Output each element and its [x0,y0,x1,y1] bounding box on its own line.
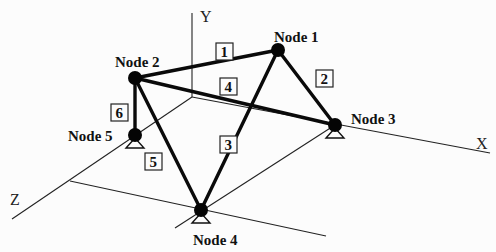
node-label: Node 5 [68,128,113,144]
member-number: 6 [116,105,124,121]
node-3 [328,118,342,132]
member-number: 2 [321,71,329,87]
z-axis [12,97,192,219]
node-label: Node 4 [193,232,238,248]
member-number: 4 [225,79,233,95]
truss-members [135,50,335,210]
labels: XYZ123456Node 1Node 2Node 3Node 4Node 5 [10,8,488,248]
truss-diagram: XYZ123456Node 1Node 2Node 3Node 4Node 5 [0,0,496,252]
node-2 [128,71,142,85]
node-4 [194,203,208,217]
x-axis-label: X [476,135,488,152]
node-1 [271,43,285,57]
z-axis-label: Z [10,191,20,208]
node-5 [128,128,142,142]
node-label: Node 3 [351,111,396,127]
node-label: Node 1 [274,29,319,45]
diagram-svg: XYZ123456Node 1Node 2Node 3Node 4Node 5 [0,0,496,252]
member-number: 5 [150,154,158,170]
coordinate-axes [12,13,490,219]
member-number: 3 [225,137,233,153]
member-number: 1 [221,44,229,60]
y-axis-label: Y [200,8,212,25]
node-label: Node 2 [115,54,160,70]
